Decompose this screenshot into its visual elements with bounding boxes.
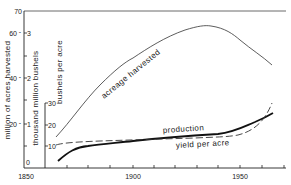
tick-x-1900: 1900 [125, 173, 141, 180]
y-axis-bushels-title: thousand million bushels [31, 51, 40, 146]
tick-acres-70: 70 [14, 8, 22, 15]
y-axis-acres-title: million of acres harvested [3, 41, 12, 140]
chart: 70 60 40 20 0 3 2 1 - - - 30 20 10 1850 … [0, 0, 291, 185]
tick-x-1950: 1950 [232, 173, 248, 180]
y-axis-acres-ticks [24, 33, 27, 146]
tick-acres-0: 0 [26, 159, 30, 166]
label-production: production [163, 123, 205, 135]
tick-yield-10: 10 [48, 143, 56, 150]
tick-yield-20: 20 [48, 122, 56, 129]
tick-dash: - [19, 119, 22, 126]
tick-dash: - [19, 73, 22, 80]
label-acreage-harvested: acreage harvested [100, 48, 162, 101]
y-axis-yield-title: bushels per acre [55, 40, 64, 104]
label-yield-per-acre: yield per acre [176, 138, 230, 150]
series-acreage-harvested [56, 26, 272, 137]
tick-bushels-3: 3 [27, 30, 31, 37]
tick-dash: - [19, 28, 22, 35]
series-production [58, 113, 273, 161]
tick-acres-60: 60 [9, 30, 17, 37]
tick-x-1850: 1850 [18, 173, 34, 180]
